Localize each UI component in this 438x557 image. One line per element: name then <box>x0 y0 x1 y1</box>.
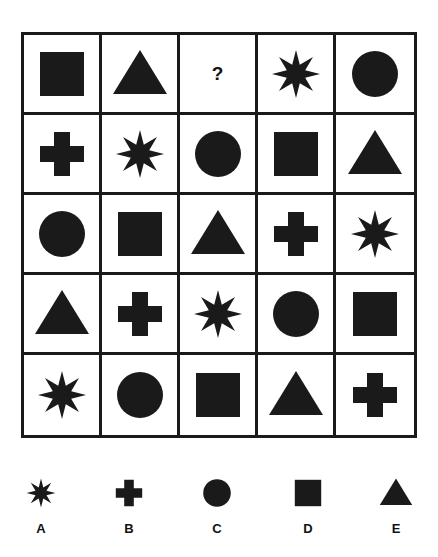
grid-cell <box>102 35 180 115</box>
cross-icon <box>345 365 405 425</box>
option-c[interactable]: C <box>187 475 247 536</box>
square-icon <box>188 365 248 425</box>
star-icon <box>345 204 405 264</box>
grid-cell <box>336 115 414 195</box>
grid-cell <box>24 195 102 275</box>
grid-cell <box>102 195 180 275</box>
grid-cell <box>24 35 102 115</box>
grid-cell <box>336 195 414 275</box>
grid-cell <box>258 275 336 355</box>
grid-cell <box>24 115 102 195</box>
option-label: E <box>366 521 426 536</box>
grid-cell <box>336 355 414 435</box>
grid-cell <box>24 355 102 435</box>
triangle-icon <box>188 204 248 264</box>
triangle-icon <box>378 475 414 511</box>
option-a[interactable]: A <box>11 475 71 536</box>
square-icon <box>110 204 170 264</box>
option-d[interactable]: D <box>278 475 338 536</box>
grid-cell <box>102 355 180 435</box>
grid-cell <box>258 35 336 115</box>
triangle-icon <box>110 44 170 104</box>
circle-icon <box>345 44 405 104</box>
grid-cell <box>24 275 102 355</box>
square-icon <box>32 44 92 104</box>
circle-icon <box>199 475 235 511</box>
star-icon <box>266 44 326 104</box>
cross-icon <box>32 124 92 184</box>
grid-cell <box>336 35 414 115</box>
missing-cell-question-mark: ? <box>212 63 224 85</box>
grid-cell <box>180 275 258 355</box>
grid-cell <box>258 115 336 195</box>
star-icon <box>188 284 248 344</box>
option-label: B <box>99 521 159 536</box>
cross-icon <box>111 475 147 511</box>
option-label: A <box>11 521 71 536</box>
triangle-icon <box>266 365 326 425</box>
triangle-icon <box>345 124 405 184</box>
circle-icon <box>266 284 326 344</box>
grid-cell <box>180 355 258 435</box>
option-label: C <box>187 521 247 536</box>
square-icon <box>266 124 326 184</box>
grid-cell <box>102 275 180 355</box>
star-icon <box>32 365 92 425</box>
option-label: D <box>278 521 338 536</box>
square-icon <box>290 475 326 511</box>
grid-cell <box>258 355 336 435</box>
option-e[interactable]: E <box>366 475 426 536</box>
star-icon <box>110 124 170 184</box>
grid-cell <box>102 115 180 195</box>
grid-cell <box>336 275 414 355</box>
cross-icon <box>266 204 326 264</box>
star-icon <box>23 475 59 511</box>
grid-cell <box>180 115 258 195</box>
puzzle-grid: ? <box>21 32 417 438</box>
grid-cell[interactable]: ? <box>180 35 258 115</box>
grid-cell <box>180 195 258 275</box>
circle-icon <box>188 124 248 184</box>
square-icon <box>345 284 405 344</box>
circle-icon <box>32 204 92 264</box>
circle-icon <box>110 365 170 425</box>
triangle-icon <box>32 284 92 344</box>
cross-icon <box>110 284 170 344</box>
option-b[interactable]: B <box>99 475 159 536</box>
grid-cell <box>258 195 336 275</box>
